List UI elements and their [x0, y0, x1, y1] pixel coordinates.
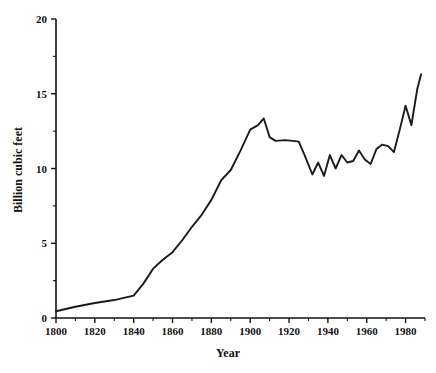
x-axis-tick-labels: 1800182018401860188019001920194019601980 — [45, 325, 417, 337]
y-tick-label: 15 — [36, 88, 48, 100]
y-tick-label: 20 — [36, 13, 48, 25]
x-tick-label: 1900 — [239, 325, 262, 337]
y-tick-label: 5 — [42, 237, 48, 249]
x-tick-label: 1920 — [278, 325, 301, 337]
x-tick-label: 1860 — [162, 325, 185, 337]
x-tick-label: 1980 — [395, 325, 418, 337]
x-tick-label: 1880 — [200, 325, 223, 337]
axes-group — [56, 19, 425, 318]
y-tick-label: 0 — [42, 312, 48, 324]
x-tick-label: 1940 — [317, 325, 340, 337]
x-tick-label: 1960 — [356, 325, 379, 337]
x-tick-label: 1820 — [84, 325, 107, 337]
y-axis-title: Billion cubic feet — [11, 127, 25, 213]
x-axis-title: Year — [216, 346, 241, 360]
line-chart: 05101520 1800182018401860188019001920194… — [0, 0, 436, 373]
y-tick-label: 10 — [36, 163, 48, 175]
x-tick-label: 1800 — [45, 325, 68, 337]
x-tick-label: 1840 — [123, 325, 146, 337]
y-axis-tick-labels: 05101520 — [36, 13, 48, 324]
chart-container: 05101520 1800182018401860188019001920194… — [0, 0, 436, 373]
data-series-line — [56, 74, 421, 311]
